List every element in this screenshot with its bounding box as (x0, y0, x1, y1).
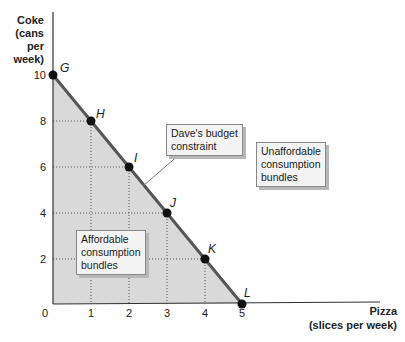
x-tick-0: 0 (42, 307, 48, 319)
annotation-line: Dave's budget (171, 127, 238, 140)
point-label-k: K (208, 242, 217, 256)
x-axis-label-line: Pizza (309, 304, 397, 318)
budget-constraint-chart: G H I J K L 10 8 6 4 2 0 1 2 3 4 5 (0, 0, 405, 342)
annotation-line: Affordable (81, 233, 141, 246)
point-label-j: J (169, 196, 177, 210)
y-tick-2: 2 (40, 253, 46, 265)
point-label-l: L (244, 286, 251, 300)
y-tick-10: 10 (34, 69, 46, 81)
x-tick-3: 3 (164, 307, 170, 319)
y-tick-4: 4 (40, 207, 46, 219)
point-label-h: H (96, 107, 105, 121)
y-axis-label-line: per (2, 40, 44, 53)
y-axis-label-line: week) (2, 53, 44, 66)
x-tick-2: 2 (126, 307, 132, 319)
annotation-line: bundles (261, 171, 321, 184)
x-axis-label-line: (slices per week) (309, 318, 397, 332)
annotation-line: consumption (261, 158, 321, 171)
x-tick-1: 1 (88, 307, 94, 319)
y-tick-8: 8 (40, 115, 46, 127)
x-tick-5: 5 (239, 307, 245, 319)
affordable-annotation: Affordable consumption bundles (76, 230, 146, 275)
y-axis-label-line: Coke (2, 14, 44, 27)
y-axis-label-line: (cans (2, 27, 44, 40)
y-tick-6: 6 (40, 161, 46, 173)
annotation-line: consumption (81, 246, 141, 259)
point-label-g: G (60, 61, 69, 75)
unaffordable-annotation: Unaffordable consumption bundles (256, 142, 326, 187)
annotation-line: constraint (171, 140, 238, 153)
annotation-line: bundles (81, 259, 141, 272)
x-axis-label: Pizza (slices per week) (309, 304, 397, 332)
budget-constraint-annotation: Dave's budget constraint (166, 124, 243, 156)
annotation-line: Unaffordable (261, 145, 321, 158)
x-tick-4: 4 (202, 307, 208, 319)
budget-label-leader (143, 154, 180, 186)
y-axis-label: Coke (cans per week) (2, 14, 44, 66)
point-label-i: I (134, 151, 138, 165)
